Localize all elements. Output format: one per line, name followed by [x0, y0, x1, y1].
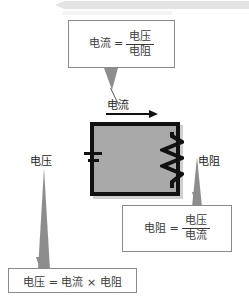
- arrow-shaft: [106, 113, 151, 115]
- equation-resistance-equals: =: [169, 223, 178, 235]
- resistor-icon: [160, 132, 184, 188]
- equation-current-lhs: 电流: [89, 38, 111, 50]
- equation-resistance-denominator: 电流: [183, 229, 209, 242]
- current-direction-arrow-icon: [106, 110, 158, 118]
- ohms-law-diagram: 电流 = 电压 电阻 电流 电压 电阻 电阻 =: [0, 0, 249, 302]
- equation-current: 电流 = 电压 电阻: [89, 31, 154, 57]
- equation-resistance-lhs: 电阻: [144, 223, 166, 235]
- equation-resistance: 电阻 = 电压 电流: [144, 215, 209, 241]
- label-voltage: 电压: [30, 152, 52, 168]
- battery-short-plate: [88, 159, 99, 162]
- battery-icon: [84, 149, 102, 165]
- pointer-voltage-triangle: [38, 168, 50, 270]
- top-banner-arrow-icon: [55, 1, 64, 9]
- callout-current-tail: [104, 68, 118, 90]
- equation-current-fraction: 电压 电阻: [126, 31, 154, 57]
- top-banner-shadow-artifact: [62, 11, 172, 15]
- equation-current-equals: =: [114, 38, 123, 50]
- equation-resistance-fraction: 电压 电流: [182, 215, 210, 241]
- equation-current-numerator: 电压: [127, 31, 153, 44]
- callout-resistance-tail: [192, 192, 200, 206]
- battery-long-plate: [84, 152, 102, 155]
- top-banner-artifact: [64, 1, 249, 9]
- equation-resistance-numerator: 电压: [183, 215, 209, 228]
- arrow-head: [149, 110, 158, 118]
- equation-current-denominator: 电阻: [127, 45, 153, 58]
- callout-voltage-formula: 电压 = 电流 × 电阻: [8, 268, 137, 293]
- callout-current-formula: 电流 = 电压 电阻: [68, 20, 175, 68]
- equation-voltage: 电压 = 电流 × 电阻: [23, 273, 121, 289]
- callout-resistance-formula: 电阻 = 电压 电流: [122, 205, 232, 252]
